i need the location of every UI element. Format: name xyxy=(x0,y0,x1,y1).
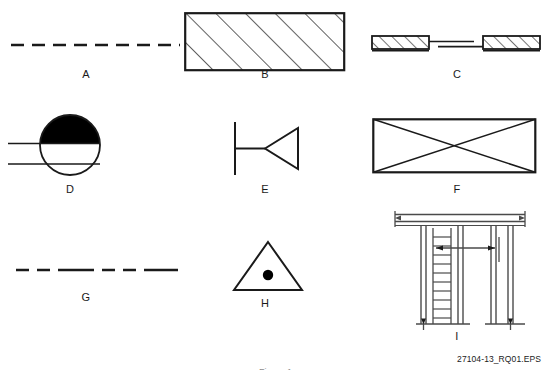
symbol-c xyxy=(370,28,542,62)
symbol-e xyxy=(228,120,308,178)
symbol-g xyxy=(8,258,183,282)
triangle-outline-icon xyxy=(234,242,302,290)
symbol-i xyxy=(392,206,532,336)
symbol-label-e: E xyxy=(245,183,285,195)
source-file-code: 27104-13_RQ01.EPS xyxy=(457,354,541,364)
figure-sheet: A B xyxy=(0,0,551,370)
base-arrow-right-icon xyxy=(508,319,513,325)
symbol-h xyxy=(232,240,304,292)
symbol-label-i: I xyxy=(437,330,477,342)
hatched-block-right-icon xyxy=(483,36,540,49)
symbol-label-g: G xyxy=(66,291,106,303)
beam-right-arrow-icon xyxy=(519,216,525,221)
symbol-a xyxy=(8,32,183,56)
symbol-b xyxy=(184,12,346,74)
symbol-label-d: D xyxy=(50,183,90,195)
hatched-rectangle-icon xyxy=(185,13,344,70)
triangle-outline-icon xyxy=(265,128,298,169)
symbol-d xyxy=(8,112,143,182)
center-dot-icon xyxy=(263,270,273,280)
base-arrow-left-icon xyxy=(421,319,426,325)
symbol-label-h: H xyxy=(245,297,285,309)
beam-left-arrow-icon xyxy=(395,216,401,221)
symbol-label-c: C xyxy=(437,68,477,80)
symbol-label-b: B xyxy=(245,68,285,80)
hatched-block-left-icon xyxy=(372,36,429,49)
symbol-label-a: A xyxy=(66,68,106,80)
symbol-label-f: F xyxy=(437,183,477,195)
symbol-f xyxy=(372,118,538,180)
